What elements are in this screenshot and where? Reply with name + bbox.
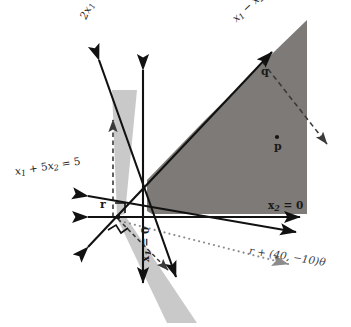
label-point-p: p	[274, 141, 282, 152]
label-axis-x1-zero: x1 = 0	[140, 227, 153, 262]
vertex-dot-p	[275, 135, 279, 139]
cone-lower-light	[117, 217, 197, 323]
figure-container: 2x1 + x2 = 6 x1 − x2 = −2 x1 + 5x2 = 5 x…	[0, 0, 351, 327]
feasible-region-dark	[147, 20, 307, 214]
label-axis-x2-zero: x2 = 0	[268, 200, 303, 213]
vertex-dot-r	[116, 215, 121, 220]
label-point-q: q	[261, 66, 269, 77]
label-point-r: r	[100, 199, 106, 210]
